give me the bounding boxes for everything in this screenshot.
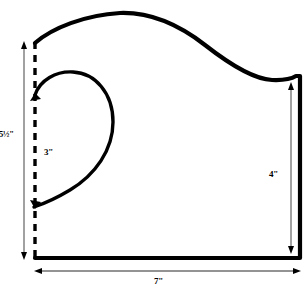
pattern-diagram: 5½" 3" 4" 7" bbox=[0, 0, 308, 289]
dimension-label-total-width: 7" bbox=[154, 277, 163, 286]
dimension-right-height bbox=[288, 82, 294, 254]
dimension-label-right-height: 4" bbox=[269, 170, 278, 179]
dimension-label-total-height-text: 5½" bbox=[0, 129, 14, 139]
dimension-total-height bbox=[21, 41, 27, 260]
dimension-total-width bbox=[34, 268, 301, 274]
dimension-label-total-height: 5½" bbox=[0, 130, 14, 139]
dimension-label-inner-height: 3" bbox=[44, 148, 53, 157]
diagram-canvas bbox=[0, 0, 308, 289]
pattern-outline bbox=[35, 13, 300, 258]
paisley-applique-outline bbox=[34, 72, 113, 207]
